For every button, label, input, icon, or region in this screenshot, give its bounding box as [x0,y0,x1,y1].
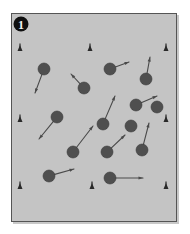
particle-marker [78,82,90,94]
panel-number-label: 1 [14,17,29,32]
panel-rect [12,14,177,222]
particle-marker [101,146,113,158]
particle-marker [104,172,116,184]
particle-marker [38,63,50,75]
edge-marker-stem [19,44,20,52]
particle-marker [151,101,163,113]
particle-marker [51,111,63,123]
particle-marker [104,63,116,75]
particle-marker [67,146,79,158]
particle-marker [43,170,55,182]
edge-marker-stem [165,44,166,52]
edge-marker-stem [19,182,20,190]
edge-marker-stem [89,44,90,52]
edge-marker-stem [165,182,166,190]
edge-marker-stem [165,115,166,123]
panel-label-badge [14,17,29,32]
particle-marker [125,120,137,132]
particle-marker [140,73,152,85]
edge-marker-stem [19,115,20,123]
edge-marker-stem [91,182,92,190]
panel-background [12,14,177,222]
particle-marker [136,144,148,156]
figure-panel-container: 1 [0,0,190,234]
particle-marker [130,99,142,111]
figure-canvas: 1 [0,0,190,234]
particle-marker [97,118,109,130]
